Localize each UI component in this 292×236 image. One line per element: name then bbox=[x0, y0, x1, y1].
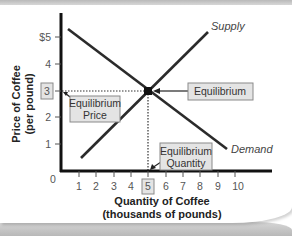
x-tick-label: 2 bbox=[93, 180, 99, 192]
x-tick-label: 1 bbox=[76, 180, 82, 192]
eq-quantity-label-line2: Quantity bbox=[166, 157, 206, 169]
y-tick-label: $5 bbox=[39, 31, 51, 43]
eq-price-label-line1: Equilibrium bbox=[69, 97, 121, 109]
x-tick-label-highlighted: 5 bbox=[145, 180, 151, 192]
y-axis-title: Price of Coffee (per pound) bbox=[10, 65, 35, 143]
y-axis-title-line1: Price of Coffee bbox=[10, 65, 22, 143]
demand-label: Demand bbox=[231, 143, 273, 155]
supply-demand-chart: 1 2 3 4 $5 0 1 2 3 4 5 6 7 8 9 10 Quanti… bbox=[0, 0, 292, 236]
x-tick-label: 4 bbox=[128, 180, 134, 192]
eq-quantity-label-line1: Equilibrium bbox=[160, 145, 212, 157]
x-tick-label: 7 bbox=[180, 180, 186, 192]
x-tick-label: 6 bbox=[163, 180, 169, 192]
y-tick-label: 4 bbox=[45, 58, 51, 70]
y-tick-label: 2 bbox=[45, 111, 51, 123]
x-axis-title-line2: (thousands of pounds) bbox=[102, 208, 221, 220]
eq-quantity-arrowhead bbox=[150, 164, 156, 170]
equilibrium-label: Equilibrium bbox=[194, 85, 246, 97]
y-axis-title-line2: (per pound) bbox=[23, 73, 35, 134]
supply-label: Supply bbox=[211, 20, 246, 32]
x-tick-label: 10 bbox=[232, 180, 244, 192]
x-axis-title-line1: Quantity of Coffee bbox=[114, 195, 209, 207]
eq-price-label-line2: Price bbox=[83, 109, 107, 121]
equilibrium-point bbox=[144, 87, 152, 95]
x-tick-label: 3 bbox=[111, 180, 117, 192]
origin-label: 0 bbox=[50, 173, 56, 185]
y-tick-label: 1 bbox=[45, 138, 51, 150]
x-tick-label: 8 bbox=[197, 180, 203, 192]
x-tick-label: 9 bbox=[215, 180, 221, 192]
y-tick-label-highlighted: 3 bbox=[44, 85, 50, 97]
